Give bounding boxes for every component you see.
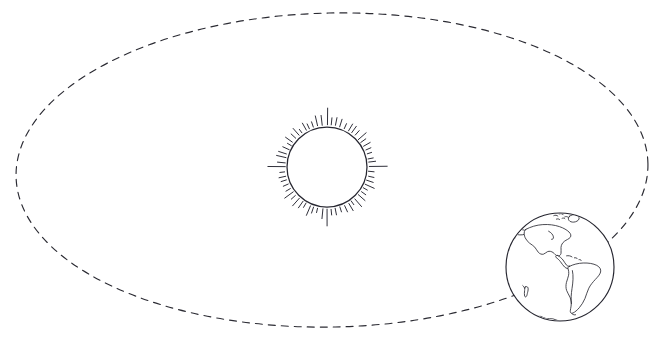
sun-ray [340,207,342,212]
sun-ray [355,199,362,207]
sun-ray [291,196,295,200]
sun-ray [283,184,288,186]
sun-ray [345,206,348,212]
sun-ray [280,172,285,173]
sun-ray [321,115,322,125]
sun-ray [279,176,286,177]
sun-ray [277,162,285,163]
diagram-canvas [0,0,663,357]
sun-ray [351,201,354,205]
sun-ray [363,188,367,190]
sun-ray [285,192,294,198]
sun-ray [291,134,296,138]
sun-ray [315,116,317,126]
sun-ray [322,209,323,219]
sun-ray [287,143,291,145]
sun-ray [358,133,366,140]
sun-ray [293,128,299,135]
sun-ray [283,147,289,150]
sun-ray [352,126,357,132]
sun-ray [286,137,293,142]
sun-ray [335,208,336,215]
sun-ray [344,124,346,129]
sun-ray [368,158,373,159]
sun-ray [367,152,371,153]
sun-ray [365,184,374,188]
sun-ray [312,122,314,127]
sun-ray [281,180,286,182]
sun-ray [331,209,332,215]
sun-ray [335,118,337,126]
sun-ray [302,123,306,130]
sun-ray [298,201,303,207]
sun-ray [340,119,342,127]
sun-ray [279,151,287,154]
sun-ray [307,124,309,129]
sun-ray [299,129,302,132]
sun-ray [349,124,353,131]
sun-ray [331,118,332,125]
orbit-diagram [0,0,663,357]
sun [268,108,387,226]
sun-ray [286,189,290,192]
sun-ray [355,131,359,135]
sun-ray [293,198,300,206]
sun-ray [304,203,307,207]
sun-ray [367,180,374,182]
sun-disc [287,127,367,207]
sun-ray [368,171,374,172]
sun-ray [312,207,314,213]
sun-ray [366,148,371,150]
earth [506,213,614,331]
sun-ray [349,204,353,211]
sun-ray [364,142,371,146]
sun-ray [317,208,318,212]
sun-ray [361,139,366,143]
sun-ray [306,206,310,215]
sun-ray [277,155,286,157]
sun-ray [369,161,376,162]
sun-ray [369,176,374,177]
sun-ray [362,192,366,195]
sun-ray [358,195,365,201]
